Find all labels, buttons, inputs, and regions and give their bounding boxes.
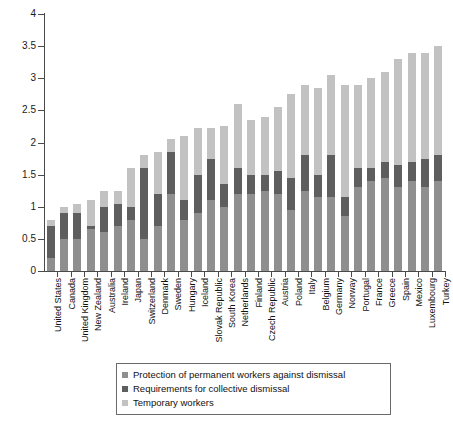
x-axis-label-iceland: Iceland xyxy=(201,278,210,307)
bar-segment-permanent-protection xyxy=(234,194,242,271)
bar-segment-temporary-workers xyxy=(421,53,429,159)
legend-label-temporary: Temporary workers xyxy=(133,398,214,408)
bar-finland xyxy=(247,120,255,271)
x-axis-tick xyxy=(151,272,152,277)
bar-japan xyxy=(127,168,135,271)
x-axis-label-slovak-republic: Slovak Republic xyxy=(215,278,224,343)
bar-segment-collective-dismissal xyxy=(434,155,442,181)
x-axis-tick xyxy=(351,272,352,277)
x-axis-tick xyxy=(84,272,85,277)
bar-segment-permanent-protection xyxy=(154,226,162,271)
x-axis-label-hungary: Hungary xyxy=(188,278,197,312)
bar-segment-collective-dismissal xyxy=(180,200,188,219)
bar-segment-permanent-protection xyxy=(87,229,95,271)
bar-segment-permanent-protection xyxy=(408,181,416,271)
bar-segment-temporary-workers xyxy=(87,200,95,226)
y-axis-tick xyxy=(38,207,44,208)
y-axis-tick xyxy=(38,110,44,111)
y-axis-tick xyxy=(38,175,44,176)
bar-segment-temporary-workers xyxy=(408,53,416,162)
y-axis-tick xyxy=(38,14,44,15)
bar-mexico xyxy=(408,53,416,271)
bar-segment-collective-dismissal xyxy=(274,171,282,193)
bar-segment-collective-dismissal xyxy=(247,175,255,194)
x-axis-label-turkey: Turkey xyxy=(442,278,451,305)
bar-segment-permanent-protection xyxy=(47,258,55,271)
y-axis-tick xyxy=(38,46,44,47)
bar-segment-temporary-workers xyxy=(247,120,255,175)
bar-turkey xyxy=(434,46,442,271)
x-axis-tick xyxy=(325,272,326,277)
bar-segment-permanent-protection xyxy=(140,239,148,271)
bar-denmark xyxy=(154,152,162,271)
bar-segment-permanent-protection xyxy=(314,197,322,271)
bar-segment-temporary-workers xyxy=(381,72,389,162)
x-axis-label-canada: Canada xyxy=(68,278,77,310)
x-axis-label-netherlands: Netherlands xyxy=(241,278,250,327)
bar-segment-collective-dismissal xyxy=(47,226,55,258)
y-axis-tick-label: 0.5 xyxy=(2,234,36,244)
bar-segment-permanent-protection xyxy=(354,187,362,271)
bar-segment-collective-dismissal xyxy=(287,178,295,210)
bar-italy xyxy=(301,85,309,271)
bar-segment-collective-dismissal xyxy=(327,155,335,197)
x-axis-tick xyxy=(71,272,72,277)
bar-segment-temporary-workers xyxy=(194,128,202,174)
x-axis-label-japan: Japan xyxy=(134,278,143,303)
x-axis-tick xyxy=(258,272,259,277)
bar-segment-collective-dismissal xyxy=(154,194,162,226)
x-axis-label-belgium: Belgium xyxy=(322,278,331,311)
x-axis-tick xyxy=(218,272,219,277)
x-axis-label-australia: Australia xyxy=(108,278,117,313)
bar-netherlands xyxy=(234,104,242,271)
bar-segment-permanent-protection xyxy=(341,216,349,271)
bar-segment-temporary-workers xyxy=(367,78,375,168)
x-axis-tick xyxy=(111,272,112,277)
x-axis-tick xyxy=(285,272,286,277)
x-axis-label-italy: Italy xyxy=(308,278,317,295)
bar-segment-collective-dismissal xyxy=(73,213,81,239)
y-axis-tick xyxy=(38,271,44,272)
x-axis-tick xyxy=(432,272,433,277)
bar-ireland xyxy=(114,191,122,271)
bar-segment-permanent-protection xyxy=(100,232,108,271)
bar-sweden xyxy=(167,139,175,271)
bar-segment-permanent-protection xyxy=(274,194,282,271)
bar-segment-permanent-protection xyxy=(127,220,135,271)
bar-segment-collective-dismissal xyxy=(234,168,242,194)
x-axis-label-poland: Poland xyxy=(295,278,304,306)
bar-segment-permanent-protection xyxy=(394,187,402,271)
x-axis-label-germany: Germany xyxy=(335,278,344,315)
bar-segment-temporary-workers xyxy=(167,139,175,152)
y-axis-tick-label: 3.5 xyxy=(2,41,36,51)
x-axis-tick xyxy=(405,272,406,277)
bar-segment-permanent-protection xyxy=(220,207,228,271)
x-axis-label-united-states: United States xyxy=(54,278,63,332)
x-axis-tick xyxy=(138,272,139,277)
y-axis-tick-label: 1 xyxy=(2,202,36,212)
bar-segment-permanent-protection xyxy=(194,213,202,271)
bar-segment-collective-dismissal xyxy=(60,213,68,239)
bar-segment-temporary-workers xyxy=(100,191,108,207)
bar-segment-permanent-protection xyxy=(434,181,442,271)
x-axis-label-sweden: Sweden xyxy=(174,278,183,311)
bar-luxembourg xyxy=(421,53,429,271)
legend-label-permanent: Protection of permanent workers against … xyxy=(133,370,345,380)
x-axis-label-luxembourg: Luxembourg xyxy=(428,278,437,328)
bar-segment-temporary-workers xyxy=(154,152,162,194)
bar-segment-permanent-protection xyxy=(381,178,389,271)
bar-segment-collective-dismissal xyxy=(127,207,135,220)
y-axis-tick-label: 4 xyxy=(2,9,36,19)
x-axis-label-spain: Spain xyxy=(402,278,411,301)
bar-segment-permanent-protection xyxy=(327,197,335,271)
bar-segment-permanent-protection xyxy=(261,191,269,271)
y-axis-tick-label: 0 xyxy=(2,266,36,276)
bar-segment-collective-dismissal xyxy=(354,168,362,187)
bar-segment-collective-dismissal xyxy=(301,155,309,190)
bar-united-kingdom xyxy=(73,204,81,271)
y-axis-tick-label: 3 xyxy=(2,73,36,83)
x-axis-label-ireland: Ireland xyxy=(121,278,130,306)
bar-segment-temporary-workers xyxy=(301,85,309,156)
bar-segment-permanent-protection xyxy=(421,187,429,271)
bar-slovak-republic xyxy=(207,128,215,271)
